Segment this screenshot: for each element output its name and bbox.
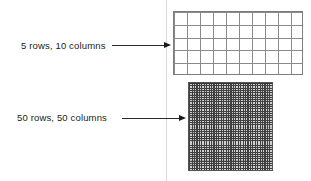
coarse-grid-5x10 bbox=[173, 11, 303, 75]
label-coarse-grid: 5 rows, 10 columns bbox=[21, 40, 106, 51]
grid-comparison-figure: 5 rows, 10 columns 50 rows, 50 columns bbox=[0, 0, 311, 181]
vertical-divider-rule bbox=[166, 0, 167, 181]
dense-grid-50x50 bbox=[188, 82, 273, 171]
leader-line-coarse-grid bbox=[112, 45, 166, 46]
arrow-right-icon-coarse-grid bbox=[164, 42, 171, 48]
leader-line-dense-grid bbox=[122, 118, 181, 119]
arrow-right-icon-dense-grid bbox=[179, 115, 186, 121]
label-dense-grid: 50 rows, 50 columns bbox=[17, 112, 107, 123]
